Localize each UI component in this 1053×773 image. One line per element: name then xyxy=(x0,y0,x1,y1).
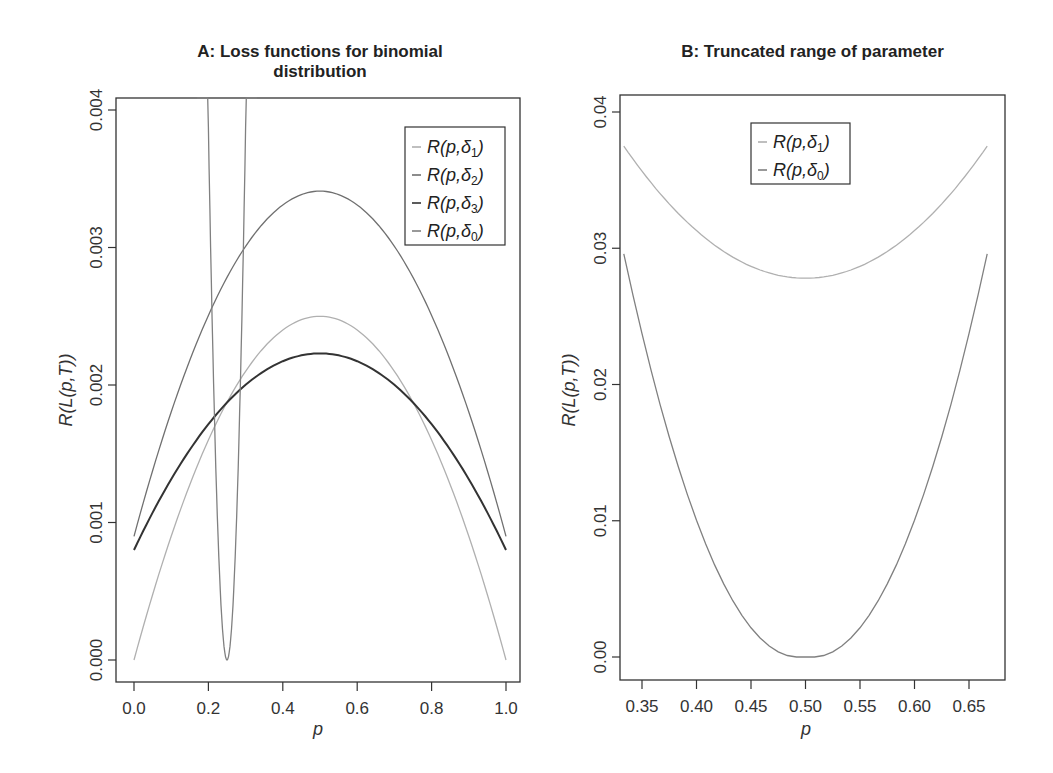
x-tick-label: 0.40 xyxy=(680,697,713,716)
panel-b-x-axis: 0.350.400.450.500.550.600.65 xyxy=(625,680,985,716)
panel-b-x-label: p xyxy=(800,719,811,739)
x-tick-label: 1.0 xyxy=(494,699,518,718)
panel-a-y-label: R(L(p,T)) xyxy=(56,354,76,427)
curve-delta1 xyxy=(134,316,506,660)
y-tick-label: 0.002 xyxy=(87,364,106,407)
x-tick-label: 0.6 xyxy=(345,699,369,718)
y-tick-label: 0.01 xyxy=(591,504,610,537)
y-tick-label: 0.001 xyxy=(87,501,106,544)
x-tick-label: 0.45 xyxy=(734,697,767,716)
y-tick-label: 0.02 xyxy=(591,368,610,401)
y-tick-label: 0.000 xyxy=(87,639,106,682)
panel-b-curves xyxy=(624,146,987,657)
panel-b-y-axis: 0.000.010.020.030.04 xyxy=(591,95,620,673)
curve-delta0 xyxy=(624,254,987,657)
panel-b: 0.000.010.020.030.04 0.350.400.450.500.5… xyxy=(559,95,1005,739)
y-tick-label: 0.003 xyxy=(87,226,106,269)
x-tick-label: 0.35 xyxy=(625,697,658,716)
y-tick-label: 0.004 xyxy=(87,89,106,132)
panel-b-y-label: R(L(p,T)) xyxy=(559,354,579,427)
y-tick-label: 0.03 xyxy=(591,232,610,265)
panel-a: 0.0000.0010.0020.0030.004 0.00.20.40.60.… xyxy=(56,89,520,739)
x-tick-label: 0.60 xyxy=(898,697,931,716)
panel-a-x-label: p xyxy=(312,719,323,739)
panel-b-legend: R(p,δ1)R(p,δ0) xyxy=(751,123,850,184)
x-tick-label: 0.55 xyxy=(843,697,876,716)
curve-delta3 xyxy=(134,353,506,550)
panel-a-legend: R(p,δ1)R(p,δ2)R(p,δ3)R(p,δ0) xyxy=(405,127,505,245)
curve-delta0 xyxy=(197,98,257,660)
x-tick-label: 0.2 xyxy=(197,699,221,718)
chart-canvas: 0.0000.0010.0020.0030.004 0.00.20.40.60.… xyxy=(0,0,1053,773)
y-tick-label: 0.00 xyxy=(591,640,610,673)
x-tick-label: 0.65 xyxy=(952,697,985,716)
panel-a-x-axis: 0.00.20.40.60.81.0 xyxy=(122,682,518,718)
x-tick-label: 0.4 xyxy=(271,699,295,718)
panel-a-y-axis: 0.0000.0010.0020.0030.004 xyxy=(87,89,116,682)
x-tick-label: 0.0 xyxy=(122,699,146,718)
y-tick-label: 0.04 xyxy=(591,95,610,128)
x-tick-label: 0.50 xyxy=(789,697,822,716)
x-tick-label: 0.8 xyxy=(420,699,444,718)
